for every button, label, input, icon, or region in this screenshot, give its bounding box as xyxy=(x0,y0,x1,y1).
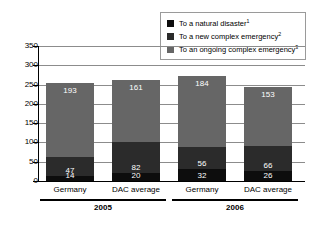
bar-value-label-natural-disaster: 32 xyxy=(178,171,226,180)
bar-segment-ongoing-complex: 193 xyxy=(46,83,94,157)
bar-2005-dac-average: 1618220 xyxy=(112,80,160,181)
legend-swatch-new-complex-emergency xyxy=(167,33,174,40)
bar-segment-natural-disaster: 32 xyxy=(178,169,226,181)
legend-item-natural-disaster: To a natural disaster1 xyxy=(167,17,300,29)
group-rule-2006 xyxy=(172,199,298,201)
bar-segment-ongoing-complex: 153 xyxy=(244,87,292,146)
legend-sup-natural-disaster: 1 xyxy=(247,17,250,23)
group-label-2005: 2005 xyxy=(40,203,166,212)
bar-segment-natural-disaster: 14 xyxy=(46,176,94,181)
stacked-bar-chart: To a natural disaster1 To a new complex … xyxy=(0,0,321,226)
bar-value-label-natural-disaster: 26 xyxy=(244,171,292,180)
bar-segment-new-complex: 56 xyxy=(178,147,226,169)
y-tick-label-100: 100 xyxy=(25,138,38,146)
category-label-2005-dac-average: DAC average xyxy=(100,185,172,194)
legend-item-new-complex-emergency: To a new complex emergency2 xyxy=(167,30,300,42)
y-tick-label-50: 50 xyxy=(29,158,38,166)
bar-value-label-natural-disaster: 20 xyxy=(112,171,160,180)
legend-label-natural-disaster: To a natural disaster1 xyxy=(179,19,249,28)
bar-segment-new-complex: 66 xyxy=(244,146,292,171)
bar-segment-natural-disaster: 20 xyxy=(112,173,160,181)
bar-segment-ongoing-complex: 184 xyxy=(178,76,226,147)
group-rule-2005 xyxy=(40,199,166,201)
group-label-2006: 2006 xyxy=(172,203,298,212)
bar-segment-ongoing-complex: 161 xyxy=(112,80,160,142)
plot-area: 1934714161822018456321536626 xyxy=(38,46,305,181)
bar-value-label-ongoing-complex: 161 xyxy=(112,83,160,92)
legend-label-new-complex-emergency: To a new complex emergency2 xyxy=(179,32,281,41)
category-label-2005-germany: Germany xyxy=(34,185,106,194)
bar-value-label-ongoing-complex: 153 xyxy=(244,90,292,99)
bar-value-label-ongoing-complex: 184 xyxy=(178,79,226,88)
y-tick-label-200: 200 xyxy=(25,100,38,108)
legend-text-natural-disaster: To a natural disaster xyxy=(179,19,247,28)
bar-2005-germany: 1934714 xyxy=(46,83,94,181)
bar-value-label-natural-disaster: 14 xyxy=(46,171,94,180)
y-tick-label-300: 300 xyxy=(25,61,38,69)
bar-2006-dac-average: 1536626 xyxy=(244,87,292,181)
y-tick-label-150: 150 xyxy=(25,119,38,127)
legend-text-new-complex-emergency: To a new complex emergency xyxy=(179,32,278,41)
legend-sup-new-complex-emergency: 2 xyxy=(278,30,281,36)
bar-value-label-new-complex: 56 xyxy=(178,159,226,168)
bar-segment-new-complex: 82 xyxy=(112,142,160,174)
y-tick-label-350: 350 xyxy=(25,42,38,50)
legend-swatch-natural-disaster xyxy=(167,20,174,27)
x-axis-line xyxy=(38,181,305,182)
y-tick-label-250: 250 xyxy=(25,81,38,89)
category-label-2006-germany: Germany xyxy=(166,185,238,194)
bar-value-label-ongoing-complex: 193 xyxy=(46,86,94,95)
bar-segment-natural-disaster: 26 xyxy=(244,171,292,181)
bar-2006-germany: 1845632 xyxy=(178,76,226,181)
category-label-2006-dac-average: DAC average xyxy=(232,185,304,194)
bar-value-label-new-complex: 66 xyxy=(244,161,292,170)
